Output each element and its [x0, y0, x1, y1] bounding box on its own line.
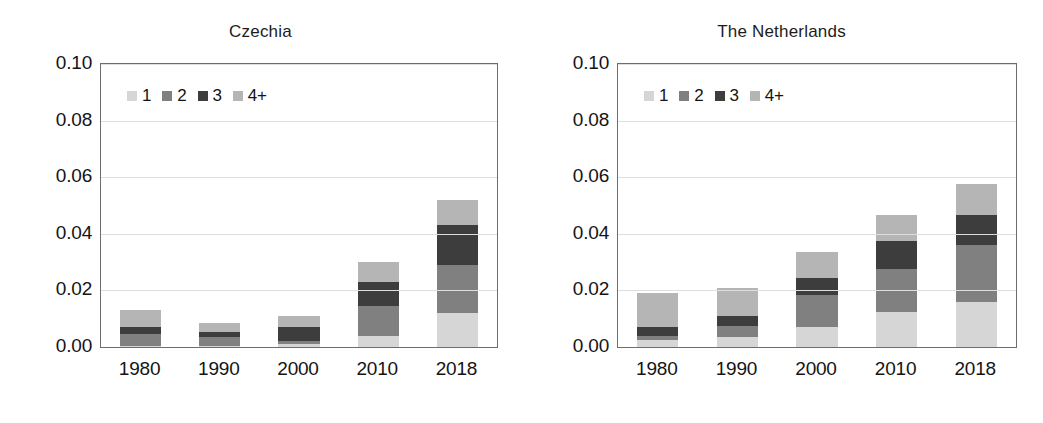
bars-layer	[101, 64, 497, 347]
legend-swatch-icon	[715, 91, 725, 101]
bar-2010	[358, 64, 399, 347]
legend: 1234+	[127, 87, 278, 104]
x-tick-label: 2010	[356, 358, 397, 380]
y-tick-label: 0.06	[56, 165, 92, 187]
legend-label: 4+	[765, 87, 784, 104]
bar-segment-3	[796, 278, 837, 295]
legend-swatch-icon	[679, 91, 689, 101]
y-tick-label: 0.04	[573, 222, 609, 244]
bar-segment-1	[956, 302, 997, 347]
bar-2018	[956, 64, 997, 347]
bar-segment-1	[199, 346, 240, 347]
gridline	[618, 290, 1016, 291]
bar-segment-4+	[120, 310, 161, 327]
legend-label: 3	[730, 87, 739, 104]
y-tick-label: 0.10	[56, 52, 92, 74]
y-tick-label: 0.00	[56, 335, 92, 357]
legend-item-4+: 4+	[750, 87, 784, 104]
bar-segment-2	[278, 341, 319, 344]
bar-segment-2	[120, 334, 161, 347]
bar-segment-4+	[199, 323, 240, 332]
y-tick-label: 0.02	[56, 278, 92, 300]
bar-segment-4+	[956, 184, 997, 215]
bar-segment-3	[876, 241, 917, 269]
gridline	[101, 177, 497, 178]
bar-segment-3	[717, 316, 758, 326]
legend-swatch-icon	[233, 91, 243, 101]
bars-layer	[618, 64, 1016, 347]
bar-segment-2	[199, 337, 240, 347]
bar-segment-4+	[637, 293, 678, 327]
legend-item-4+: 4+	[233, 87, 267, 104]
stacked-bar-figure: Czechia 0.000.020.040.060.080.10 1234+ 1…	[0, 0, 1043, 423]
plot-area: 1234+	[617, 63, 1017, 348]
panel-the-netherlands: The Netherlands 0.000.020.040.060.080.10…	[521, 0, 1042, 423]
bar-1990	[717, 64, 758, 347]
bar-segment-3	[956, 215, 997, 245]
legend-swatch-icon	[162, 91, 172, 101]
legend-item-3: 3	[715, 87, 739, 104]
bar-segment-2	[358, 306, 399, 336]
x-tick-label: 1980	[119, 358, 160, 380]
legend-item-1: 1	[644, 87, 668, 104]
y-tick-label: 0.10	[573, 52, 609, 74]
bar-segment-3	[358, 282, 399, 306]
bar-segment-4+	[278, 316, 319, 327]
legend-item-3: 3	[198, 87, 222, 104]
panel-title: The Netherlands	[521, 22, 1042, 42]
bar-segment-4+	[717, 288, 758, 316]
bar-segment-1	[717, 337, 758, 347]
gridline	[101, 290, 497, 291]
y-tick-label: 0.08	[573, 109, 609, 131]
legend: 1234+	[644, 87, 795, 104]
bar-segment-4+	[358, 262, 399, 282]
bar-segment-1	[278, 344, 319, 347]
bar-segment-3	[120, 327, 161, 334]
y-axis-ticks: 0.000.020.040.060.080.10	[521, 63, 609, 348]
y-tick-label: 0.08	[56, 109, 92, 131]
panel-title: Czechia	[0, 22, 521, 42]
legend-swatch-icon	[750, 91, 760, 101]
legend-label: 1	[659, 87, 668, 104]
x-tick-label: 1990	[716, 358, 757, 380]
bar-segment-2	[717, 326, 758, 337]
bar-segment-1	[437, 313, 478, 347]
legend-label: 3	[213, 87, 222, 104]
bar-segment-2	[956, 245, 997, 302]
legend-item-2: 2	[162, 87, 186, 104]
legend-label: 2	[177, 87, 186, 104]
bar-1990	[199, 64, 240, 347]
bar-segment-3	[637, 327, 678, 335]
bar-2010	[876, 64, 917, 347]
legend-label: 1	[142, 87, 151, 104]
y-tick-label: 0.00	[573, 335, 609, 357]
legend-swatch-icon	[127, 91, 137, 101]
bar-segment-1	[120, 346, 161, 347]
gridline	[618, 64, 1016, 65]
bar-2000	[796, 64, 837, 347]
y-tick-label: 0.02	[573, 278, 609, 300]
gridline	[101, 234, 497, 235]
legend-item-1: 1	[127, 87, 151, 104]
bar-segment-1	[796, 327, 837, 347]
legend-label: 4+	[248, 87, 267, 104]
plot-area: 1234+	[100, 63, 498, 348]
y-axis-ticks: 0.000.020.040.060.080.10	[0, 63, 92, 348]
x-tick-label: 2018	[436, 358, 477, 380]
legend-swatch-icon	[644, 91, 654, 101]
bar-segment-2	[637, 336, 678, 340]
bar-segment-4+	[876, 215, 917, 240]
gridline	[101, 64, 497, 65]
bar-2000	[278, 64, 319, 347]
bar-segment-1	[637, 340, 678, 347]
gridline	[101, 121, 497, 122]
bar-segment-4+	[437, 200, 478, 225]
bar-1980	[637, 64, 678, 347]
y-tick-label: 0.04	[56, 222, 92, 244]
bar-segment-1	[358, 336, 399, 347]
bar-segment-3	[199, 332, 240, 336]
bar-segment-3	[278, 327, 319, 341]
panel-czechia: Czechia 0.000.020.040.060.080.10 1234+ 1…	[0, 0, 521, 423]
gridline	[618, 177, 1016, 178]
gridline	[618, 234, 1016, 235]
